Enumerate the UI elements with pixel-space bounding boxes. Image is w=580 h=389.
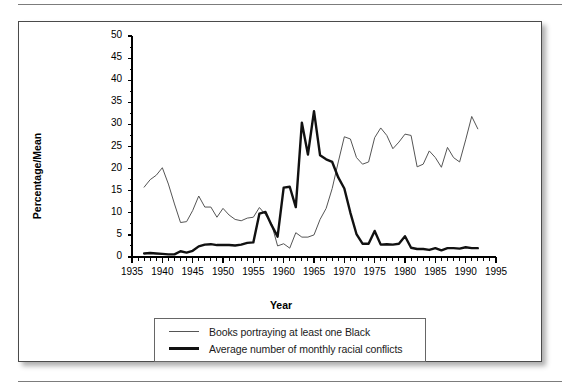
- y-tick-label: 50: [96, 29, 122, 40]
- chart-legend: Books portraying at least one Black Aver…: [154, 318, 426, 362]
- y-tick-label: 40: [96, 73, 122, 84]
- y-axis-title: Percentage/Mean: [31, 106, 43, 246]
- legend-item-conflicts: Average number of monthly racial conflic…: [155, 340, 425, 357]
- y-tick-label: 15: [96, 184, 122, 195]
- legend-item-books: Books portraying at least one Black: [155, 323, 425, 340]
- y-tick-label: 45: [96, 51, 122, 62]
- y-tick-label: 30: [96, 117, 122, 128]
- page-rule-bottom: [18, 381, 562, 382]
- chart-plot-area: 05101520253035404550 1935194019451950195…: [19, 22, 543, 363]
- legend-label-books: Books portraying at least one Black: [209, 326, 370, 338]
- y-tick-label: 25: [96, 140, 122, 151]
- y-tick-label: 5: [96, 228, 122, 239]
- legend-swatch-conflicts-line: [169, 347, 199, 350]
- y-tick-label: 10: [96, 206, 122, 217]
- page-rule-top: [18, 4, 562, 5]
- y-tick-label: 0: [96, 250, 122, 261]
- series-line-1: [144, 111, 478, 254]
- y-tick-label: 20: [96, 162, 122, 173]
- legend-swatch-books-line: [169, 331, 199, 332]
- figure-page: 05101520253035404550 1935194019451950195…: [0, 0, 580, 389]
- x-axis-title: Year: [19, 299, 543, 311]
- x-tick-label: 1995: [476, 266, 516, 277]
- y-tick-label: 35: [96, 95, 122, 106]
- legend-label-conflicts: Average number of monthly racial conflic…: [209, 343, 402, 355]
- figure-container: 05101520253035404550 1935194019451950195…: [18, 21, 542, 362]
